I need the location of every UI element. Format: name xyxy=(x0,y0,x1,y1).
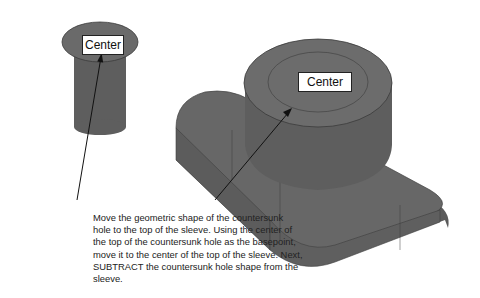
instruction-caption: Move the geometric shape of the counters… xyxy=(93,212,303,285)
base-center-label: Center xyxy=(298,72,352,92)
sleeve-center-label: Center xyxy=(82,35,124,55)
